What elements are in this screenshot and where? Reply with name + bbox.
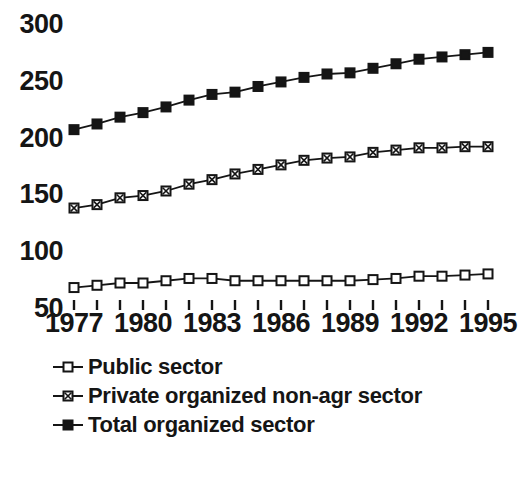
data-point-marker — [64, 362, 73, 371]
legend-swatch-svg — [52, 387, 84, 405]
marker-square — [93, 119, 102, 128]
marker-square — [484, 269, 493, 278]
marker-square — [185, 96, 194, 105]
marker-square — [139, 279, 148, 288]
marker-square — [208, 274, 217, 283]
marker-square — [70, 283, 79, 292]
data-point-marker — [70, 125, 79, 134]
legend-marker-icon — [52, 358, 84, 376]
marker-square — [392, 274, 401, 283]
marker-square — [300, 73, 309, 82]
x-tick-label: 1989 — [321, 310, 379, 337]
data-point-marker — [93, 200, 102, 209]
marker-square — [369, 64, 378, 73]
data-point-marker — [415, 143, 424, 152]
x-tick-label: 1980 — [114, 310, 172, 337]
data-point-marker — [346, 276, 355, 285]
legend-swatch-svg — [52, 358, 84, 376]
legend-item[interactable]: Public sector — [52, 352, 522, 381]
series-1 — [70, 269, 493, 292]
data-point-marker — [300, 276, 309, 285]
data-point-marker — [369, 64, 378, 73]
marker-square — [369, 275, 378, 284]
marker-square — [277, 77, 286, 86]
data-point-marker — [369, 148, 378, 157]
data-point-marker — [300, 156, 309, 165]
data-point-marker — [208, 90, 217, 99]
data-point-marker — [116, 193, 125, 202]
chart-legend: Public sectorPrivate organized non-agr s… — [52, 352, 522, 439]
data-point-marker — [461, 50, 470, 59]
marker-square — [93, 281, 102, 290]
data-point-marker — [484, 48, 493, 57]
legend-item[interactable]: Total organized sector — [52, 410, 522, 439]
data-point-marker — [116, 279, 125, 288]
data-point-marker — [323, 276, 332, 285]
legend-swatch-svg — [52, 416, 84, 434]
legend-label: Public sector — [88, 354, 222, 380]
data-point-marker — [185, 180, 194, 189]
legend-label: Private organized non-agr sector — [88, 383, 422, 409]
data-point-marker — [70, 204, 79, 213]
data-point-marker — [254, 82, 263, 91]
data-point-marker — [64, 391, 73, 400]
data-point-marker — [185, 274, 194, 283]
marker-square — [346, 276, 355, 285]
data-point-marker — [323, 69, 332, 78]
marker-square — [438, 52, 447, 61]
x-tick-label: 1983 — [183, 310, 241, 337]
data-point-marker — [185, 96, 194, 105]
marker-square — [254, 276, 263, 285]
data-point-marker — [208, 274, 217, 283]
marker-square — [64, 420, 73, 429]
data-point-marker — [346, 152, 355, 161]
marker-square — [64, 362, 73, 371]
marker-square — [415, 55, 424, 64]
marker-square — [323, 69, 332, 78]
legend-marker-icon — [52, 387, 84, 405]
data-point-marker — [461, 271, 470, 280]
data-point-marker — [415, 55, 424, 64]
marker-square — [70, 125, 79, 134]
marker-square — [461, 271, 470, 280]
data-point-marker — [231, 169, 240, 178]
data-point-marker — [231, 88, 240, 97]
data-point-marker — [461, 142, 470, 151]
data-point-marker — [369, 275, 378, 284]
series-2 — [70, 142, 493, 212]
x-tick-label: 1977 — [45, 310, 103, 337]
data-point-marker — [139, 191, 148, 200]
marker-square — [162, 276, 171, 285]
data-point-marker — [484, 269, 493, 278]
data-point-marker — [392, 146, 401, 155]
legend-marker-icon — [52, 416, 84, 434]
data-point-marker — [162, 276, 171, 285]
data-point-marker — [93, 119, 102, 128]
data-point-marker — [438, 52, 447, 61]
data-point-marker — [277, 77, 286, 86]
series-line — [74, 147, 488, 208]
series-line — [74, 52, 488, 129]
data-point-marker — [64, 420, 73, 429]
x-tick-label: 1995 — [459, 310, 517, 337]
marker-square — [415, 272, 424, 281]
marker-square — [231, 276, 240, 285]
marker-square — [185, 274, 194, 283]
marker-square — [461, 50, 470, 59]
data-point-marker — [116, 113, 125, 122]
data-point-marker — [323, 154, 332, 163]
marker-square — [208, 90, 217, 99]
data-point-marker — [438, 143, 447, 152]
legend-item[interactable]: Private organized non-agr sector — [52, 381, 522, 410]
data-point-marker — [484, 142, 493, 151]
marker-square — [323, 276, 332, 285]
data-point-marker — [162, 102, 171, 111]
data-point-marker — [415, 272, 424, 281]
data-point-marker — [392, 274, 401, 283]
line-chart: 30025020015010050 1977198019831986198919… — [0, 0, 531, 477]
marker-square — [277, 276, 286, 285]
x-tick-label: 1986 — [252, 310, 310, 337]
data-point-marker — [277, 276, 286, 285]
marker-square — [254, 82, 263, 91]
data-point-marker — [162, 186, 171, 195]
